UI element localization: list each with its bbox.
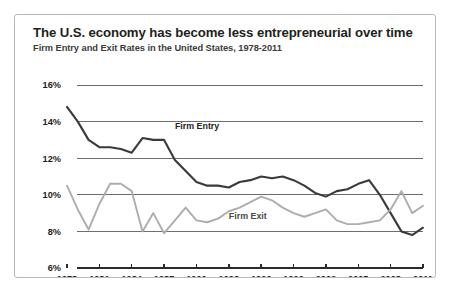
series-label-firm-entry: Firm Entry	[175, 121, 219, 131]
page-title: The U.S. economy has become less entrepr…	[33, 25, 413, 40]
series-label-firm-exit: Firm Exit	[229, 211, 267, 221]
chart-card: The U.S. economy has become less entrepr…	[14, 14, 436, 278]
y-axis-tick-label: 14%	[43, 117, 61, 127]
series-inline-labels-group: Firm EntryFirm Exit	[175, 121, 267, 221]
x-axis-tick-label: 1987	[154, 274, 174, 277]
x-axis-tick-label: 2002	[316, 274, 336, 277]
y-axis-tick-label: 6%	[48, 263, 61, 273]
x-axis-tick-label: 1999	[283, 274, 303, 277]
chart-plot-area: 6%8%10%12%14%16% 19781981198419871990199…	[15, 55, 435, 277]
y-axis-labels-group: 6%8%10%12%14%16%	[43, 80, 61, 273]
x-axis-tick-label: 1990	[186, 274, 206, 277]
line-chart: 6%8%10%12%14%16% 19781981198419871990199…	[15, 55, 435, 277]
y-axis-tick-label: 16%	[43, 80, 61, 90]
y-axis-tick-label: 12%	[43, 154, 61, 164]
x-axis-tick-label: 2005	[348, 274, 368, 277]
y-axis-tick-label: 8%	[48, 227, 61, 237]
x-axis-tick-label: 1981	[89, 274, 109, 277]
gridlines-group	[77, 85, 423, 231]
x-axis-tick-label: 2011	[413, 274, 433, 277]
x-axis-group	[67, 264, 423, 268]
x-axis-tick-label: 2008	[380, 274, 400, 277]
x-axis-tick-label: 1996	[251, 274, 271, 277]
x-axis-tick-label: 1993	[219, 274, 239, 277]
y-axis-tick-label: 10%	[43, 190, 61, 200]
x-axis-tick-label: 1978	[57, 274, 77, 277]
x-axis-labels-group: 1978198119841987199019931996199920022005…	[57, 274, 433, 277]
series-line-firm-exit	[67, 184, 423, 233]
x-axis-tick-label: 1984	[122, 274, 143, 277]
chart-subtitle: Firm Entry and Exit Rates in the United …	[33, 43, 282, 53]
